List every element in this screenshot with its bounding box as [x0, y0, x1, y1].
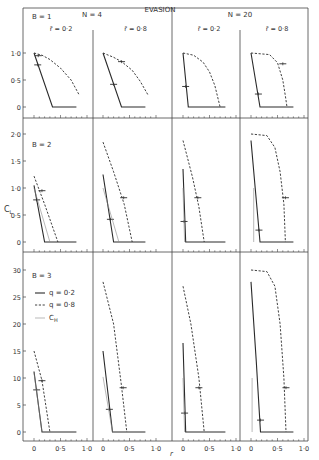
series [33, 53, 293, 432]
legend-label: CH [49, 314, 58, 323]
x-tick-label: 1·0 [82, 445, 92, 453]
y-axis-label: CL [4, 205, 13, 215]
y-tick-label: 5 [17, 402, 21, 410]
y-tick-label: 1·0 [11, 185, 21, 193]
x-tick-label: 0·5 [55, 445, 65, 453]
chart-title: EVASION [145, 6, 176, 14]
series-q08 [183, 141, 204, 243]
y-tick-label: 30 [13, 267, 21, 275]
row-label: B = 2 [32, 141, 52, 149]
legend-label: q = 0·8 [49, 301, 75, 309]
series-q02 [34, 53, 76, 107]
series-ch [34, 188, 50, 242]
panel-frames [23, 8, 308, 441]
series-q02 [251, 141, 293, 243]
column-label: r̄ = 0·2 [198, 25, 221, 33]
series-q02 [251, 53, 293, 107]
series-q08 [251, 53, 287, 107]
row-label: B = 3 [32, 272, 52, 280]
series-ch [103, 188, 119, 242]
y-tick-label: 20 [13, 321, 21, 329]
series-q08 [251, 134, 285, 242]
series-q08 [251, 270, 286, 432]
x-tick-label: 0·5 [272, 445, 282, 453]
x-tick-label: 0 [181, 445, 185, 453]
series-q08 [183, 53, 220, 107]
x-tick-label: 0·5 [204, 445, 214, 453]
column-label: r̄ = 0·8 [124, 25, 147, 33]
y-tick-label: 15 [13, 348, 21, 356]
evasion-chart: 00·51·000·51·01·52·005101520253000·51·00… [0, 0, 319, 460]
x-axis-label: r [170, 450, 174, 458]
y-tick-label: 0 [17, 104, 21, 112]
y-tick-label: 1·0 [11, 50, 21, 58]
x-tick-label: 1·0 [151, 445, 161, 453]
legend: q = 0·2q = 0·8CH [35, 289, 75, 323]
column-label: r̄ = 0·2 [50, 25, 73, 33]
series-q02 [183, 169, 225, 242]
series-q02 [183, 53, 225, 107]
series-q08 [183, 286, 204, 432]
y-tick-label: 2·0 [11, 131, 21, 139]
group-label: N = 4 [82, 11, 103, 19]
legend-label: q = 0·2 [49, 289, 75, 297]
series-q08 [34, 176, 58, 242]
y-tick-label: 0 [17, 239, 21, 247]
column-label: r̄ = 0·8 [266, 25, 289, 33]
series-q02 [183, 343, 225, 432]
series-ch [103, 377, 113, 432]
series-q02 [251, 282, 293, 432]
y-tick-label: 0 [17, 429, 21, 437]
row-label: B = 1 [32, 13, 52, 21]
series-q08 [103, 142, 132, 242]
y-tick-label: 10 [13, 375, 21, 383]
y-tick-label: 1·5 [11, 158, 21, 166]
x-tick-label: 0 [32, 445, 36, 453]
series-ch [34, 373, 42, 432]
group-label: N = 20 [228, 11, 252, 19]
x-tick-label: 0·5 [124, 445, 134, 453]
x-tick-label: 0 [101, 445, 105, 453]
y-tick-label: 25 [13, 294, 21, 302]
axes: 00·51·000·51·01·52·005101520253000·51·00… [11, 50, 310, 454]
y-tick-label: 0·5 [11, 77, 21, 85]
x-tick-label: 1·0 [299, 445, 309, 453]
series-q02 [103, 351, 145, 432]
chart-canvas: 00·51·000·51·01·52·005101520253000·51·00… [0, 0, 319, 460]
x-tick-label: 1·0 [231, 445, 241, 453]
series-q02 [103, 175, 145, 243]
x-tick-label: 0 [249, 445, 253, 453]
